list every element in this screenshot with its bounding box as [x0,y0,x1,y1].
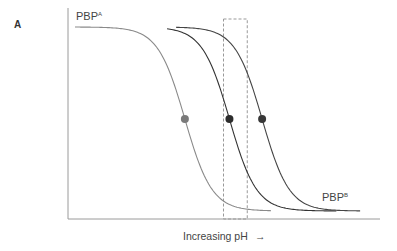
curve-label-3: PBPB [322,191,348,203]
series-line-2 [167,29,336,211]
series-line-1 [75,27,271,211]
x-axis-arrow: → [255,230,266,242]
chart: A PBPAPBPB Increasing pH → [0,0,397,251]
x-axis-label: Increasing pH [183,230,248,242]
midpoint-marker-1 [181,115,189,123]
panel-label: A [14,19,21,30]
series-line-3 [176,27,360,211]
curve-label-1: PBPA [76,10,102,22]
midpoint-marker-3 [258,115,266,123]
midpoint-marker-2 [225,115,233,123]
